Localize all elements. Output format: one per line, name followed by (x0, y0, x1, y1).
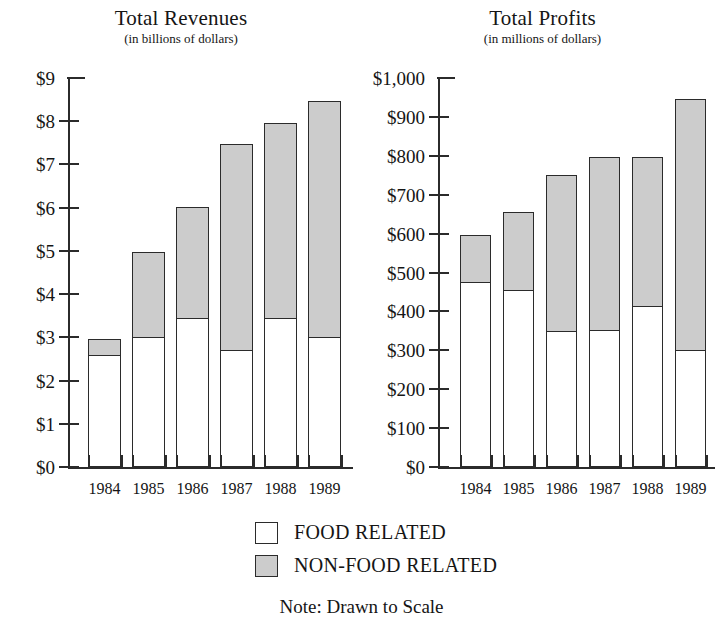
x-axis-tick (706, 455, 708, 468)
y-axis-tick (59, 336, 79, 338)
y-axis-tick (59, 293, 79, 295)
x-axis-tick (308, 455, 310, 468)
bar-segment-food (88, 355, 121, 467)
y-axis-tick (59, 120, 79, 122)
x-axis-tick (297, 455, 299, 468)
x-axis-tick (546, 455, 548, 468)
legend-label-food: FOOD RELATED (294, 521, 446, 544)
y-axis-tick (429, 388, 449, 390)
bar-segment-nonfood (176, 207, 209, 319)
y-axis-tick-label: $5 (36, 241, 55, 260)
x-axis-tick (176, 455, 178, 468)
y-axis-tick-label: $200 (387, 380, 425, 399)
y-axis-tick (59, 380, 79, 382)
x-axis-tick (253, 455, 255, 468)
bar-segment-food (220, 350, 253, 467)
y-axis-tick-label: $100 (387, 419, 425, 438)
bar-segment-nonfood (264, 123, 297, 320)
bar-segment-nonfood (546, 175, 577, 333)
x-axis-tick (132, 455, 134, 468)
plot-area-revenues: $0$1$2$3$4$5$6$7$8$919841985198619871988… (68, 78, 353, 467)
bar-1988[interactable] (264, 121, 297, 467)
x-axis-tick (88, 455, 90, 468)
bar-1986[interactable] (546, 173, 577, 467)
y-axis-line (68, 78, 70, 467)
y-axis-tick (429, 349, 449, 351)
x-axis-label-1988: 1988 (632, 480, 664, 498)
bar-segment-nonfood (675, 99, 706, 352)
bar-1989[interactable] (308, 100, 341, 467)
y-axis-tick-label: $1,000 (373, 69, 425, 88)
chart-total-revenues: Total Revenues (in billions of dollars) … (0, 0, 362, 505)
x-axis-label-1985: 1985 (133, 480, 165, 498)
bar-segment-food (503, 290, 534, 467)
bar-segment-food (632, 306, 663, 467)
bar-segment-food (546, 331, 577, 467)
legend-item-food: FOOD RELATED (0, 516, 723, 549)
x-axis-tick (663, 455, 665, 468)
x-axis-tick (341, 455, 343, 468)
x-axis-tick (620, 455, 622, 468)
x-axis-tick (534, 455, 536, 468)
x-axis-label-1989: 1989 (309, 480, 341, 498)
y-axis-tick (59, 250, 79, 252)
bar-1987[interactable] (589, 156, 620, 467)
y-axis-tick (437, 77, 455, 79)
y-axis-tick (429, 427, 449, 429)
y-axis-tick-label: $6 (36, 198, 55, 217)
bar-segment-food (176, 318, 209, 467)
y-axis-tick-label: $7 (36, 155, 55, 174)
y-axis-tick (59, 466, 79, 468)
x-axis-label-1987: 1987 (221, 480, 253, 498)
x-axis-label-1984: 1984 (460, 480, 492, 498)
y-axis-tick-label: $300 (387, 341, 425, 360)
bar-segment-food (675, 350, 706, 467)
bar-segment-food (132, 337, 165, 467)
bar-segment-nonfood (132, 252, 165, 338)
x-axis-tick (632, 455, 634, 468)
bar-1984[interactable] (460, 234, 491, 467)
y-axis-tick (429, 272, 449, 274)
x-axis-label-1984: 1984 (89, 480, 121, 498)
bar-1986[interactable] (176, 206, 209, 467)
bar-segment-food (308, 337, 341, 467)
bar-segment-nonfood (589, 157, 620, 331)
bar-1985[interactable] (132, 251, 165, 467)
x-axis-tick (491, 455, 493, 468)
bar-1985[interactable] (503, 210, 534, 467)
x-axis-tick (165, 455, 167, 468)
x-axis-tick (220, 455, 222, 468)
y-axis-tick (429, 466, 449, 468)
x-axis-tick (675, 455, 677, 468)
bar-segment-nonfood (308, 101, 341, 339)
legend: FOOD RELATED NON-FOOD RELATED (0, 516, 723, 582)
legend-swatch-nonfood-icon (255, 555, 278, 577)
x-axis-label-1987: 1987 (589, 480, 621, 498)
chart-title-revenues: Total Revenues (0, 6, 362, 31)
bar-segment-nonfood (503, 212, 534, 292)
x-axis-label-1986: 1986 (546, 480, 578, 498)
chart-total-profits: Total Profits (in millions of dollars) $… (362, 0, 723, 505)
y-axis-tick (67, 77, 85, 79)
chart-title-profits: Total Profits (362, 6, 723, 31)
chart-subtitle-profits: (in millions of dollars) (362, 31, 723, 47)
x-axis-label-1985: 1985 (503, 480, 535, 498)
y-axis-tick-label: $0 (406, 458, 425, 477)
bar-1984[interactable] (88, 337, 121, 467)
y-axis-tick-label: $8 (36, 112, 55, 131)
y-axis-tick-label: $1 (36, 414, 55, 433)
x-axis-tick (589, 455, 591, 468)
bar-segment-nonfood (88, 339, 121, 356)
y-axis-tick-label: $800 (387, 146, 425, 165)
y-axis-tick-label: $900 (387, 107, 425, 126)
bar-1988[interactable] (632, 156, 663, 467)
legend-item-nonfood: NON-FOOD RELATED (0, 549, 723, 582)
y-axis-tick (59, 207, 79, 209)
y-axis-tick-label: $2 (36, 371, 55, 390)
y-axis-tick (429, 194, 449, 196)
y-axis-tick (59, 163, 79, 165)
bar-1987[interactable] (220, 143, 253, 467)
y-axis-tick-label: $9 (36, 69, 55, 88)
bar-1989[interactable] (675, 97, 706, 467)
bar-segment-food (460, 282, 491, 467)
